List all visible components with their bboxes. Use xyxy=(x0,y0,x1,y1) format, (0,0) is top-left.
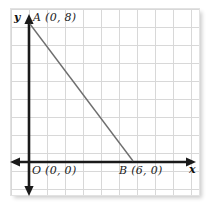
figure-root: y x A (0, 8) O (0, 0) B (6, 0) xyxy=(0,0,209,206)
point-label-a: A (0, 8) xyxy=(33,11,76,24)
hypotenuse-segment-ab xyxy=(30,24,133,161)
point-label-b: B (6, 0) xyxy=(119,164,163,177)
y-axis-label: y xyxy=(14,11,20,24)
x-axis-arrow-left xyxy=(10,157,20,166)
y-axis-arrow-down xyxy=(24,186,33,196)
x-axis-label: x xyxy=(189,163,196,176)
point-label-o: O (0, 0) xyxy=(32,164,77,177)
